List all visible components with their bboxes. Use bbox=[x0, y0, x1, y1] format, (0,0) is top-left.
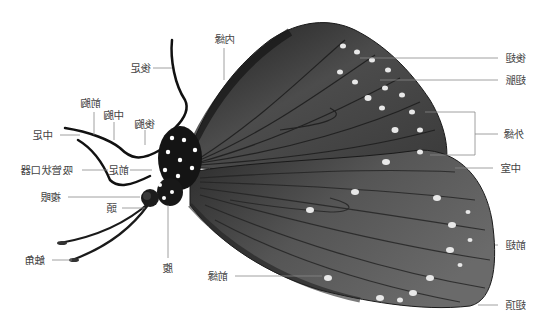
label-proboscis: 吸管状口器 bbox=[20, 164, 73, 176]
label-forewing: 前翅 bbox=[505, 239, 526, 251]
label-hindwing: 後翅 bbox=[505, 52, 526, 64]
label-metathorax: 後胸 bbox=[134, 118, 155, 130]
hindwing-shape bbox=[190, 23, 447, 173]
forewing-shape bbox=[190, 150, 495, 308]
label-middle-leg: 中足 bbox=[32, 129, 53, 141]
label-antenna: 触角 bbox=[24, 254, 45, 266]
label-abdomen: 腹 bbox=[162, 262, 173, 274]
label-vein: 翅脈 bbox=[505, 74, 526, 86]
label-outer-margin: 外縁 bbox=[503, 128, 524, 140]
label-costa: 前縁 bbox=[207, 270, 228, 282]
foreleg bbox=[78, 140, 150, 185]
butterfly-illustration bbox=[0, 0, 551, 334]
label-hind-leg: 後足 bbox=[130, 62, 151, 74]
label-prothorax: 前胸 bbox=[80, 97, 101, 109]
label-foreleg: 前足 bbox=[108, 164, 129, 176]
butterfly-anatomy-diagram: 後足 内縁 後胸 中胸 前胸 中足 前足 吸管状口器 複眼 頭 触角 腹 前縁 … bbox=[0, 0, 551, 334]
label-head: 頭 bbox=[106, 202, 117, 214]
label-discal-cell: 中室 bbox=[500, 162, 521, 174]
label-apex: 翅頂 bbox=[505, 299, 526, 311]
label-compound-eye: 複眼 bbox=[40, 191, 61, 203]
label-inner-margin: 内縁 bbox=[214, 33, 235, 45]
hind-leg bbox=[172, 40, 187, 130]
compound-eye bbox=[143, 192, 151, 200]
label-mesothorax: 中胸 bbox=[103, 109, 124, 121]
